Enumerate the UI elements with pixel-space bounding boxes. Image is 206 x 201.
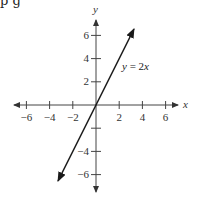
x-tick-label: −2 — [67, 111, 79, 123]
x-tick-label: 2 — [116, 111, 122, 123]
x-tick-label: 4 — [140, 111, 146, 123]
y-tick-label: 4 — [84, 52, 90, 64]
x-tick-label: −4 — [44, 111, 56, 123]
equation-label: y = 2x — [121, 60, 149, 72]
x-tick-label: 6 — [163, 111, 169, 123]
y-tick-label: −4 — [77, 145, 89, 157]
y-tick-label: −6 — [77, 168, 89, 180]
x-tick-labels: −6 −4 −2 2 4 6 — [21, 111, 169, 123]
y-tick-label: 2 — [84, 75, 90, 87]
x-axis-label: x — [182, 98, 188, 110]
y-axis-label: y — [92, 3, 98, 15]
coordinate-plane: −6 −4 −2 2 4 6 6 4 2 −4 −6 x y y = 2x — [0, 0, 206, 201]
y-tick-label: 6 — [84, 29, 90, 41]
x-tick-label: −6 — [21, 111, 33, 123]
